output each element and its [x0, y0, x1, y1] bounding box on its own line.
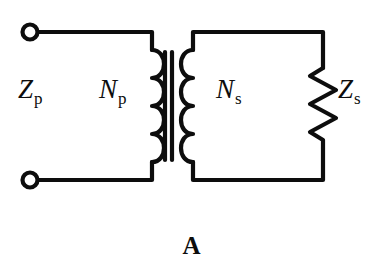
- secondary-bottom-wire: [193, 148, 323, 180]
- label-zp-symbol: Z: [18, 74, 33, 104]
- label-zs-subscript: s: [354, 89, 361, 108]
- primary-coil-winding: [152, 50, 164, 162]
- primary-bottom-wire: [38, 162, 152, 180]
- label-zp-subscript: p: [34, 89, 43, 108]
- label-secondary-impedance: Zs: [338, 76, 360, 103]
- label-np-symbol: N: [99, 74, 117, 104]
- transformer-diagram: Zp Np Ns Zs A: [0, 0, 383, 276]
- load-resistor-zigzag: [310, 68, 336, 148]
- label-ns-subscript: s: [235, 89, 242, 108]
- primary-top-wire: [38, 32, 152, 50]
- figure-caption: A: [0, 233, 383, 258]
- terminal-bottom-icon[interactable]: [23, 173, 38, 188]
- terminal-top-icon[interactable]: [23, 25, 38, 40]
- label-secondary-turns: Ns: [216, 76, 241, 103]
- label-zs-symbol: Z: [338, 74, 353, 104]
- label-np-subscript: p: [118, 89, 127, 108]
- label-primary-turns: Np: [99, 76, 126, 103]
- label-primary-impedance: Zp: [18, 76, 42, 103]
- label-ns-symbol: N: [216, 74, 234, 104]
- secondary-top-wire: [193, 32, 323, 68]
- secondary-coil-winding: [181, 50, 193, 162]
